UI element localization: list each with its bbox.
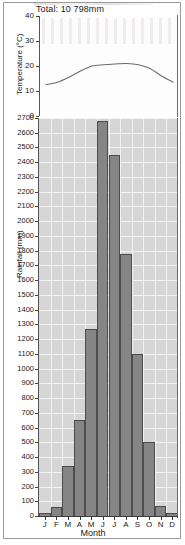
rainfall-tick-label: 400	[21, 452, 34, 461]
rainfall-gridline-vertical	[166, 118, 167, 516]
rainfall-tick-mark	[35, 339, 38, 340]
temperature-tick-label: 20	[25, 61, 34, 70]
rainfall-bar	[51, 507, 63, 516]
rainfall-tick-mark	[35, 310, 38, 311]
temperature-tick-mark	[36, 116, 39, 117]
rainfall-tick-label: 1900	[17, 231, 34, 240]
rainfall-tick-label: 1600	[17, 275, 34, 284]
temperature-right-rule	[177, 15, 178, 117]
rainfall-tick-label: 0	[30, 511, 34, 520]
chart-title: Total: 10 798mm	[36, 4, 104, 14]
rainfall-tick-mark	[35, 147, 38, 148]
rainfall-tick-label: 2300	[17, 172, 34, 181]
rainfall-bar	[74, 420, 86, 516]
rainfall-baseline	[38, 516, 178, 517]
rainfall-tick-mark	[35, 487, 38, 488]
rainfall-tick-mark	[35, 251, 38, 252]
rainfall-tick-label: 1000	[17, 364, 34, 373]
rainfall-tick-label: 2600	[17, 128, 34, 137]
rainfall-axis-line	[38, 118, 39, 517]
rainfall-tick-mark	[35, 472, 38, 473]
rainfall-tick-label: 2700	[17, 113, 34, 122]
temperature-tick-mark	[36, 16, 39, 17]
rainfall-tick-mark	[35, 369, 38, 370]
rainfall-panel: 0100200300400500600700800900100011001200…	[39, 118, 178, 516]
rainfall-bar	[109, 155, 121, 516]
temperature-tick-mark	[36, 91, 39, 92]
rainfall-tick-label: 600	[21, 423, 34, 432]
rainfall-tick-label: 800	[21, 393, 34, 402]
rainfall-tick-mark	[35, 398, 38, 399]
rainfall-tick-mark	[35, 354, 38, 355]
rainfall-tick-label: 1700	[17, 260, 34, 269]
rainfall-tick-label: 1200	[17, 334, 34, 343]
temperature-panel: 010203040	[39, 16, 178, 116]
temperature-tick-label: 30	[25, 36, 34, 45]
rainfall-tick-label: 2500	[17, 142, 34, 151]
rainfall-tick-label: 300	[21, 467, 34, 476]
rainfall-tick-mark	[35, 516, 38, 517]
temperature-tick-label: 10	[25, 86, 34, 95]
rainfall-bar	[132, 354, 144, 516]
temperature-line-series	[40, 16, 179, 116]
rainfall-tick-label: 2000	[17, 216, 34, 225]
rainfall-tick-mark	[35, 236, 38, 237]
rainfall-tick-label: 1500	[17, 290, 34, 299]
rainfall-tick-mark	[35, 221, 38, 222]
rainfall-gridline-vertical	[62, 118, 63, 516]
rainfall-tick-mark	[35, 118, 38, 119]
rainfall-right-rule	[177, 118, 178, 518]
rainfall-tick-label: 2200	[17, 187, 34, 196]
rainfall-tick-mark	[35, 457, 38, 458]
rainfall-tick-label: 500	[21, 437, 34, 446]
rainfall-tick-mark	[35, 280, 38, 281]
rainfall-tick-label: 2100	[17, 201, 34, 210]
temperature-tick-mark	[36, 66, 39, 67]
temperature-tick-label: 40	[25, 11, 34, 20]
rainfall-tick-mark	[35, 206, 38, 207]
rainfall-tick-label: 1100	[18, 349, 34, 358]
temperature-axis-title: Temperature (°C)	[15, 34, 24, 95]
rainfall-tick-label: 1800	[17, 246, 34, 255]
rainfall-bar	[85, 329, 97, 516]
rainfall-tick-label: 100	[21, 496, 34, 505]
rainfall-tick-mark	[35, 295, 38, 296]
climate-chart-figure: Total: 10 798mm Temperature (°C) Rainfal…	[3, 2, 181, 539]
rainfall-bar	[97, 121, 109, 516]
rainfall-bar	[155, 506, 167, 516]
rainfall-tick-mark	[35, 265, 38, 266]
rainfall-tick-label: 1400	[17, 305, 34, 314]
rainfall-gridline-vertical	[51, 118, 52, 516]
rainfall-tick-label: 1300	[17, 319, 34, 328]
rainfall-bar	[143, 442, 155, 516]
rainfall-tick-mark	[35, 501, 38, 502]
temperature-tick-mark	[36, 41, 39, 42]
temperature-plot-area	[39, 16, 179, 116]
rainfall-plot-area	[39, 118, 178, 516]
x-axis-title: Month	[4, 528, 182, 538]
rainfall-tick-mark	[35, 413, 38, 414]
rainfall-tick-mark	[35, 324, 38, 325]
rainfall-tick-mark	[35, 162, 38, 163]
rainfall-bar	[120, 254, 132, 516]
rainfall-tick-mark	[35, 133, 38, 134]
rainfall-tick-mark	[35, 192, 38, 193]
rainfall-gridline-vertical	[155, 118, 156, 516]
rainfall-bar	[62, 466, 74, 516]
rainfall-tick-mark	[35, 383, 38, 384]
rainfall-tick-label: 2400	[17, 157, 34, 166]
rainfall-tick-label: 700	[21, 408, 34, 417]
rainfall-tick-label: 200	[21, 482, 34, 491]
rainfall-tick-mark	[35, 442, 38, 443]
rainfall-tick-label: 900	[21, 378, 34, 387]
rainfall-tick-mark	[35, 428, 38, 429]
rainfall-tick-mark	[35, 177, 38, 178]
